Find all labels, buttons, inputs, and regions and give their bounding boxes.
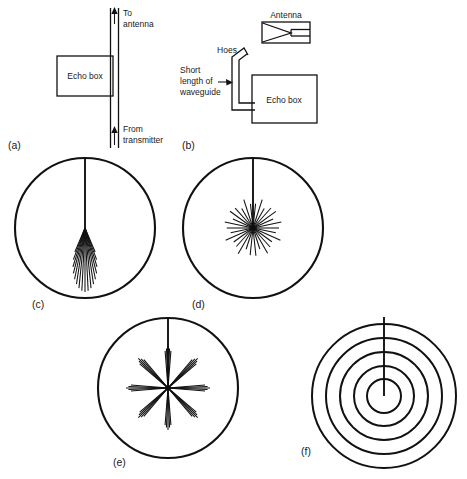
antenna-label-b: Antenna [270,10,302,20]
panel-caption-a: (a) [8,139,21,151]
panel-c: (c) [15,158,155,310]
panel-a: Echo box To antenna From transmitter (a) [8,7,163,151]
panel-e: (e) [98,318,238,468]
arrow-up-icon-top-a [111,7,117,14]
panel-caption-c: (c) [32,298,44,310]
panel-f: (f) [301,317,456,468]
technical-figure: Echo box To antenna From transmitter (a)… [0,0,467,479]
echo-box-label-a: Echo box [67,71,103,81]
panel-caption-f: (f) [301,445,311,457]
echo-box-label-b: Echo box [266,95,302,105]
to-antenna-label-line2: antenna [123,19,154,29]
short-length-label-line3: waveguide [179,87,221,97]
panel-caption-b: (b) [182,139,195,151]
arrow-up-icon-bottom-a [111,126,117,133]
figure-root: Echo box To antenna From transmitter (a)… [0,0,467,479]
antenna-horn-icon-b [263,23,292,42]
from-transmitter-label-line1: From [123,124,143,134]
panel-caption-d: (d) [192,298,205,310]
horn-label-b: Hoes [217,45,237,55]
short-length-label-line1: Short [180,65,201,75]
to-antenna-label-line1: To [123,8,132,18]
from-transmitter-label-line2: transmitter [123,135,163,145]
horn-inner-edge-b [239,54,247,70]
panel-d: (d) [183,158,323,310]
panel-caption-e: (e) [113,456,126,468]
spike-clusters-e [126,346,210,430]
panel-b: Antenna Hoes Short length of waveguide E… [179,10,317,151]
short-length-label-line2: length of [180,76,213,86]
